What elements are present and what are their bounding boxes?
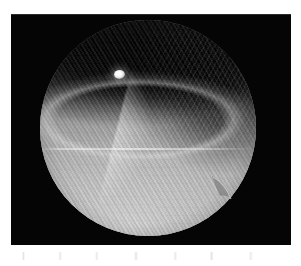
rim-notch [211, 174, 233, 204]
film-panel [11, 14, 291, 245]
paper-scan-speckle [11, 252, 291, 260]
horizontal-scanline-artifact [40, 148, 256, 150]
page-canvas [0, 0, 301, 266]
bright-marker-clip [114, 70, 125, 79]
panel-top-sheen [11, 14, 291, 15]
rim-notch-shape [211, 174, 233, 204]
